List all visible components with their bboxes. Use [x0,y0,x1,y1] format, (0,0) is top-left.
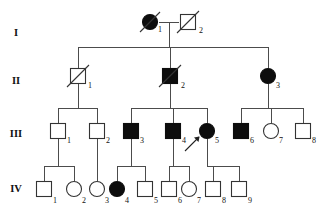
individual-id-label: 9 [248,196,252,205]
individual-IV-7[interactable]: 7 [182,182,202,206]
generation-label-IV: IV [10,183,22,194]
individual-IV-1[interactable]: 1 [37,182,58,206]
individual-id-label: 5 [215,136,219,145]
individual-III-7[interactable]: 7 [264,124,284,146]
individual-id-label: 7 [279,136,283,145]
individual-id-label: 5 [154,196,158,205]
individual-id-label: 7 [197,196,201,205]
symbol-square-unaffected[interactable] [37,182,52,197]
symbol-square-unaffected[interactable] [232,182,247,197]
individual-II-3[interactable]: 3 [261,69,281,91]
individual-id-label: 3 [105,196,109,205]
individual-IV-2[interactable]: 2 [67,182,87,206]
individual-IV-3[interactable]: 3 [90,182,110,206]
individual-id-label: 3 [276,81,280,90]
symbol-circle-unaffected[interactable] [67,182,82,197]
individual-III-1[interactable]: 1 [51,124,72,146]
individual-III-8[interactable]: 8 [296,124,317,146]
generation-labels: I II III IV [10,27,22,194]
symbol-square-unaffected[interactable] [90,124,105,139]
individual-IV-4[interactable]: 4 [110,182,130,206]
individual-id-label: 2 [82,196,86,205]
symbol-square-unaffected[interactable] [296,124,311,139]
individual-II-1[interactable]: 1 [67,65,92,90]
symbol-circle-affected[interactable] [110,182,125,197]
symbol-circle-affected[interactable] [200,124,215,139]
individual-id-label: 2 [106,136,110,145]
symbol-circle-affected[interactable] [261,69,276,84]
individual-I-1[interactable]: 1 [140,12,162,34]
individual-IV-5[interactable]: 5 [138,182,159,206]
individual-id-label: 1 [88,81,92,90]
individual-id-label: 8 [222,196,226,205]
symbol-square-affected[interactable] [166,124,181,139]
generation-label-I: I [14,27,18,38]
symbol-circle-unaffected[interactable] [90,182,105,197]
individual-id-label: 8 [312,136,316,145]
individual-III-6[interactable]: 6 [234,124,255,146]
symbol-square-unaffected[interactable] [162,182,177,197]
generation-label-III: III [10,128,22,139]
connector-lines [44,22,303,181]
individual-II-2[interactable]: 2 [159,65,185,90]
symbol-square-affected[interactable] [234,124,249,139]
individual-id-label: 2 [181,81,185,90]
generation-label-II: II [12,75,20,86]
individual-id-label: 4 [182,136,186,145]
individual-id-label: 3 [140,136,144,145]
symbol-square-unaffected[interactable] [51,124,66,139]
individual-III-5[interactable]: 5 [200,124,220,146]
symbol-square-unaffected[interactable] [206,182,221,197]
individual-III-3[interactable]: 3 [124,124,145,146]
individual-III-2[interactable]: 2 [90,124,111,146]
individual-id-label: 1 [158,25,162,34]
individual-id-label: 4 [125,196,129,205]
individual-id-label: 1 [67,136,71,145]
individual-id-label: 1 [53,196,57,205]
individual-III-4[interactable]: 4 [166,124,187,146]
symbol-circle-unaffected[interactable] [264,124,279,139]
pedigree-chart: I II III IV 1 2 1 [0,0,324,216]
individual-IV-9[interactable]: 9 [232,182,253,206]
individual-id-label: 6 [250,136,254,145]
symbol-square-unaffected[interactable] [138,182,153,197]
individual-I-2[interactable]: 2 [177,11,203,35]
proband-arrow-icon [185,137,200,152]
individual-id-label: 2 [199,26,203,35]
individual-IV-6[interactable]: 6 [162,182,183,206]
pedigree-canvas: I II III IV 1 2 1 [0,0,324,216]
symbol-circle-unaffected[interactable] [182,182,197,197]
individual-id-label: 6 [178,196,182,205]
symbol-square-affected[interactable] [124,124,139,139]
individual-IV-8[interactable]: 8 [206,182,227,206]
